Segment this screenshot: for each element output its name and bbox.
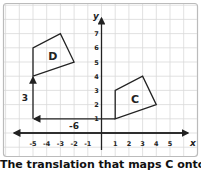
y-tick-label: 7 [94,30,99,38]
y-tick-label: 5 [94,59,99,67]
x-tick-label: 1 [113,140,118,148]
coordinate-plane: xy-5-4-3-2-1123451234567-63CD [0,0,201,171]
x-tick-label: 4 [154,140,159,148]
x-tick-label: -2 [70,140,77,148]
vertical-shift-label: 3 [22,93,28,103]
coordinate-grid-figure: xy-5-4-3-2-1123451234567-63CD The transl… [0,0,201,171]
y-tick-label: 4 [94,73,99,81]
y-tick-label: 6 [94,44,99,52]
x-tick-label: -5 [29,140,37,148]
x-tick-label: 2 [127,140,132,148]
x-tick-label: -3 [57,140,64,148]
shape-label-d: D [48,50,57,63]
x-tick-label: -1 [84,140,92,148]
horizontal-shift-label: -6 [69,121,79,131]
shape-label-c: C [131,93,139,106]
y-tick-label: 2 [94,101,99,109]
x-axis-label: x [189,138,197,148]
y-tick-label: 3 [94,87,99,95]
x-tick-label: 3 [140,140,145,148]
x-tick-label: -4 [43,140,51,148]
figure-caption: The translation that maps C onto D [0,158,201,171]
x-tick-label: 5 [168,140,173,148]
